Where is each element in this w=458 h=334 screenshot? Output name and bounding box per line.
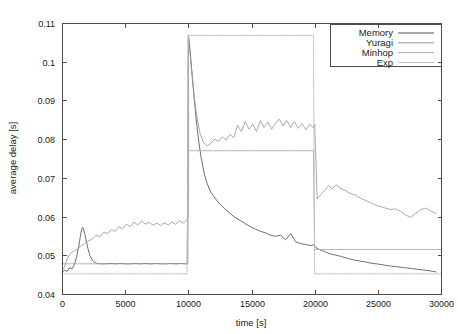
y-tick-label: 0.08 — [37, 135, 55, 145]
legend-label-exp: Exp — [377, 57, 393, 68]
chart-figure: 0500010000150002000025000300000.040.050.… — [0, 0, 458, 334]
y-axis-title: average delay [s] — [7, 122, 18, 194]
x-tick-label: 25000 — [366, 299, 391, 309]
y-tick-label: 0.07 — [37, 174, 55, 184]
x-tick-label: 5000 — [115, 299, 135, 309]
y-tick-label: 0.09 — [37, 96, 55, 106]
x-tick-label: 15000 — [240, 299, 265, 309]
line-chart: 0500010000150002000025000300000.040.050.… — [0, 0, 458, 334]
x-tick-label: 30000 — [429, 299, 454, 309]
y-tick-label: 0.05 — [37, 251, 55, 261]
x-tick-label: 0 — [60, 299, 65, 309]
x-tick-label: 10000 — [176, 299, 201, 309]
y-tick-label: 0.04 — [37, 290, 55, 300]
y-tick-label: 0.06 — [37, 213, 55, 223]
x-axis-title: time [s] — [236, 317, 267, 328]
y-tick-label: 0.1 — [42, 58, 55, 68]
y-tick-label: 0.11 — [38, 19, 55, 29]
x-tick-label: 20000 — [303, 299, 328, 309]
